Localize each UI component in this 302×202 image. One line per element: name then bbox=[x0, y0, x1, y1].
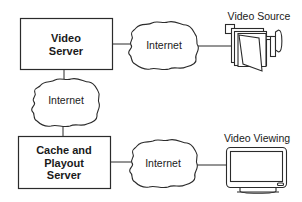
video-server-label-line2: Server bbox=[20, 45, 112, 58]
internet-bottom-label: Internet bbox=[139, 157, 187, 169]
video-viewing-label: Video Viewing bbox=[222, 132, 292, 144]
video-server-label-line1: Video bbox=[20, 32, 112, 45]
cache-server-label: Cache and Playout Server bbox=[18, 144, 110, 182]
cache-server-label-line3: Server bbox=[18, 169, 110, 182]
internet-top-label: Internet bbox=[140, 39, 188, 51]
cache-server-label-line1: Cache and bbox=[18, 144, 110, 157]
cache-server-label-line2: Playout bbox=[18, 157, 110, 170]
video-source-label: Video Source bbox=[226, 10, 292, 22]
internet-left-label: Internet bbox=[42, 94, 90, 106]
video-server-label: Video Server bbox=[20, 32, 112, 57]
monitor-icon bbox=[227, 148, 287, 194]
video-camera-icon bbox=[226, 25, 282, 72]
